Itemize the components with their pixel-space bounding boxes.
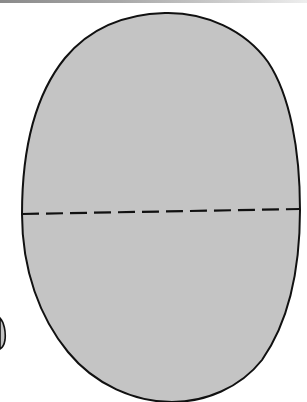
oval-pattern-piece [22, 13, 300, 402]
pattern-figure [0, 0, 307, 402]
edge-fragment-shape [0, 318, 5, 349]
